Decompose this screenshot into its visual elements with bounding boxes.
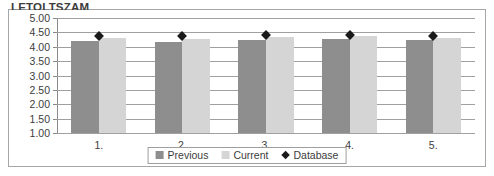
category-axis-label: 1.	[94, 139, 103, 151]
axis-tick	[53, 133, 57, 134]
bar-current[interactable]	[99, 38, 127, 133]
axis-tick	[53, 18, 57, 19]
bar-previous[interactable]	[155, 42, 183, 133]
axis-tick	[53, 61, 57, 62]
diamond-marker-icon	[281, 151, 289, 159]
value-axis-label: 5.00	[30, 13, 50, 24]
category-axis-label: 4.	[345, 139, 354, 151]
value-axis-label: 1.50	[30, 113, 50, 124]
legend-label: Database	[293, 150, 338, 161]
legend-entry[interactable]: Previous	[156, 150, 209, 161]
gridline	[57, 133, 475, 134]
bar-current[interactable]	[182, 39, 210, 133]
chart-object[interactable]: LETOLTSZAM 5.004.504.003.503.002.502.001…	[8, 9, 486, 167]
bar-current[interactable]	[266, 37, 294, 133]
bar-previous[interactable]	[322, 39, 350, 133]
legend-label: Previous	[168, 150, 209, 161]
value-axis-label: 3.00	[30, 70, 50, 81]
axis-tick	[53, 90, 57, 91]
legend-entry[interactable]: Current	[221, 150, 268, 161]
axis-tick	[53, 76, 57, 77]
legend-label: Current	[233, 150, 268, 161]
chart-legend[interactable]: PreviousCurrentDatabase	[148, 147, 347, 165]
value-axis-label: 4.00	[30, 42, 50, 53]
bar-current[interactable]	[350, 36, 378, 133]
value-axis-label: 4.50	[30, 27, 50, 38]
square-swatch-icon	[156, 151, 164, 159]
legend-entry[interactable]: Database	[281, 150, 338, 161]
value-axis-label: 1.00	[30, 128, 50, 139]
category-axis-label: 5.	[429, 139, 438, 151]
bar-current[interactable]	[433, 38, 461, 133]
axis-tick	[53, 47, 57, 48]
plot-area: 5.004.504.003.503.002.502.001.501.00 1.2…	[57, 18, 475, 133]
bar-previous[interactable]	[406, 40, 434, 133]
bar-previous[interactable]	[238, 40, 266, 133]
value-axis-label: 3.50	[30, 56, 50, 67]
bar-previous[interactable]	[71, 41, 99, 133]
axis-tick	[53, 104, 57, 105]
chart-title: LETOLTSZAM	[11, 1, 89, 10]
value-axis-label: 2.50	[30, 85, 50, 96]
axis-tick	[53, 119, 57, 120]
axis-tick	[53, 32, 57, 33]
square-swatch-icon	[221, 151, 229, 159]
value-axis-label: 2.00	[30, 99, 50, 110]
